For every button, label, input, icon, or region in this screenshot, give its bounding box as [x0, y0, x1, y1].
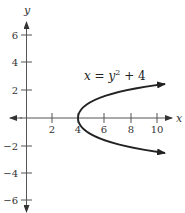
- equation-rhs: + 4: [120, 69, 146, 83]
- x-tick-label: 10: [151, 124, 164, 135]
- y-tick-label: −6: [3, 195, 18, 206]
- curve-upper-branch: [78, 84, 165, 118]
- x-tick-label: 8: [128, 124, 134, 135]
- chart-canvas: x 2 4 6 8 10 y 6 4 2 −2: [0, 0, 185, 213]
- y-axis: y 6 4 2 −2 −4 −6: [3, 4, 32, 212]
- equation-label: x = y2 + 4: [84, 68, 146, 83]
- x-tick-label: 2: [49, 124, 55, 135]
- y-tick-label: 6: [12, 30, 18, 41]
- x-axis-label: x: [176, 112, 183, 125]
- equation-lhs: x = y: [84, 69, 115, 83]
- y-tick-label: −4: [3, 168, 18, 179]
- y-axis-label: y: [23, 4, 31, 17]
- x-tick-label: 6: [101, 124, 107, 135]
- y-tick-label: 4: [12, 57, 18, 68]
- y-tick-label: −2: [3, 141, 18, 152]
- y-tick-label: 2: [12, 85, 18, 96]
- x-axis: x 2 4 6 8 10: [10, 112, 183, 135]
- x-ticks: 2 4 6 8 10: [49, 113, 164, 135]
